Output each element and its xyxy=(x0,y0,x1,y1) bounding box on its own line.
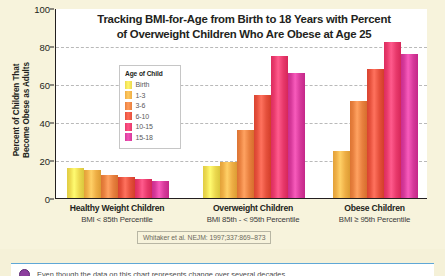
y-axis-tick-mark xyxy=(50,9,54,10)
callout-panel: Even though the data on this chart repre… xyxy=(11,263,434,276)
x-axis-group-label: Healthy Weight ChildrenBMI < 85th Percen… xyxy=(42,203,192,225)
legend-entry: 3-6 xyxy=(125,101,175,112)
chart-title-line-2: of Overweight Children Who Are Obese at … xyxy=(68,27,420,42)
legend-title: Age of Child xyxy=(125,70,175,77)
bar-fill xyxy=(152,181,169,198)
bar-fill xyxy=(118,177,135,198)
legend-entry-label: 6-10 xyxy=(136,113,150,120)
legend-entry: 1-3 xyxy=(125,90,175,101)
y-axis-tick-mark xyxy=(50,85,54,86)
bar-fill xyxy=(384,42,401,198)
legend-entry: 10-15 xyxy=(125,122,175,133)
purple-bullet-icon xyxy=(19,269,30,276)
legend-swatch-icon xyxy=(125,91,132,99)
citation-box: Whitaker et al. NEJM: 1997;337:869–873 xyxy=(137,231,271,244)
legend-swatch-icon xyxy=(125,112,132,120)
y-axis-tick-label: 20 xyxy=(10,156,50,167)
bar-fill xyxy=(203,166,220,198)
y-axis-tick-label: 80 xyxy=(10,42,50,53)
bar-fill xyxy=(101,175,118,198)
y-axis-tick-mark xyxy=(50,199,54,200)
y-axis-tick-mark xyxy=(50,161,54,162)
legend-entry: 15-18 xyxy=(125,132,175,143)
legend-entry-label: Birth xyxy=(136,81,150,88)
y-axis-tick-mark xyxy=(50,47,54,48)
legend-swatch-icon xyxy=(125,133,132,141)
legend-entries: Birth1-33-66-1010-1515-18 xyxy=(125,80,175,143)
legend-entry-label: 1-3 xyxy=(136,92,146,99)
bar-fill xyxy=(220,162,237,198)
x-axis-group-title: Healthy Weight Children xyxy=(42,203,192,214)
bar-fill xyxy=(237,130,254,198)
callout-text: Even though the data on this chart repre… xyxy=(37,270,287,276)
x-axis-group-sublabel: BMI ≥ 95th Percentile xyxy=(300,214,445,225)
legend-swatch-icon xyxy=(125,102,132,110)
y-axis-tick-label: 40 xyxy=(10,118,50,129)
bar-fill xyxy=(401,54,418,198)
legend: Age of Child Birth1-33-66-1010-1515-18 xyxy=(119,65,181,149)
bar-fill xyxy=(271,56,288,199)
x-axis-group-title: Obese Children xyxy=(300,203,445,214)
bar-fill xyxy=(135,179,152,198)
legend-entry-label: 3-6 xyxy=(136,102,146,109)
bar-fill xyxy=(254,95,271,198)
legend-entry: 6-10 xyxy=(125,111,175,122)
bar-fill xyxy=(367,69,384,198)
y-axis-tick-label: 100 xyxy=(10,4,50,15)
y-axis-tick-mark xyxy=(50,123,54,124)
chart-figure: Percent of Children That Become Obese as… xyxy=(0,0,445,249)
x-axis-group-label: Obese ChildrenBMI ≥ 95th Percentile xyxy=(300,203,445,225)
bar-fill xyxy=(350,101,367,198)
legend-entry: Birth xyxy=(125,80,175,91)
bottom-strip: Even though the data on this chart repre… xyxy=(0,249,445,276)
chart-title-line-1: Tracking BMI-for-Age from Birth to 18 Ye… xyxy=(68,12,420,27)
bar-fill xyxy=(67,168,84,198)
legend-swatch-icon xyxy=(125,123,132,131)
bar-fill xyxy=(84,170,101,199)
bar-fill xyxy=(288,73,305,198)
chart-title: Tracking BMI-for-Age from Birth to 18 Ye… xyxy=(68,12,420,41)
bar-fill xyxy=(333,151,350,199)
legend-swatch-icon xyxy=(125,81,132,89)
legend-entry-label: 10-15 xyxy=(136,123,153,130)
y-axis-tick-label: 60 xyxy=(10,80,50,91)
legend-entry-label: 15-18 xyxy=(136,134,153,141)
x-axis-group-sublabel: BMI < 85th Percentile xyxy=(42,214,192,225)
